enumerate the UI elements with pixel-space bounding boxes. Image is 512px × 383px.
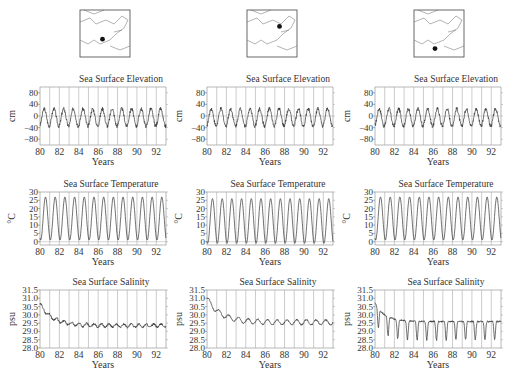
x-tick-label: 88 [280, 147, 290, 157]
x-tick-label: 84 [74, 147, 84, 157]
x-tick-label: 80 [370, 350, 380, 360]
y-axis-label: psu [173, 312, 184, 326]
x-tick-label: 84 [74, 247, 84, 257]
x-tick-label: 84 [409, 147, 419, 157]
x-tick-label: 90 [132, 147, 142, 157]
panel-sea-surface-salinity: Sea Surface Salinity31.531.030.530.029.5… [341, 277, 503, 370]
panel-sea-surface-temperature: Sea Surface Temperature30252015105080828… [173, 179, 335, 267]
x-tick-label: 88 [280, 247, 290, 257]
station-marker [433, 46, 438, 51]
x-tick-label: 80 [370, 247, 380, 257]
x-tick-label: 90 [467, 350, 477, 360]
x-tick-label: 80 [202, 350, 212, 360]
x-tick-label: 88 [113, 247, 123, 257]
y-tick-label: −80 [359, 134, 374, 144]
x-tick-label: 84 [409, 350, 419, 360]
y-tick-label: 80 [196, 88, 206, 98]
panel-sea-surface-elevation: Sea Surface Elevation80400−40−8080828486… [6, 74, 168, 167]
x-tick-label: 92 [319, 247, 329, 257]
y-tick-label: 0 [369, 237, 374, 247]
location-map [80, 10, 130, 57]
x-tick-label: 84 [74, 350, 84, 360]
panel-title: Sea Surface Salinity [72, 277, 149, 287]
data-series [207, 298, 333, 326]
y-axis-label: psu [6, 312, 17, 326]
location-map [414, 10, 464, 57]
station-marker [277, 24, 282, 29]
x-tick-label: 92 [152, 350, 162, 360]
y-tick-label: −40 [24, 123, 39, 133]
x-tick-label: 80 [370, 147, 380, 157]
x-tick-label: 88 [448, 147, 458, 157]
data-series [40, 107, 166, 128]
panel-title: Sea Surface Elevation [414, 74, 498, 84]
panel-sea-surface-elevation: Sea Surface Elevation80400−40−8080828486… [173, 74, 335, 167]
x-tick-label: 88 [280, 350, 290, 360]
y-axis-label: cm [173, 110, 184, 122]
panel-title: Sea Surface Salinity [407, 277, 484, 287]
x-axis-label: Years [427, 156, 449, 167]
y-tick-label: 80 [364, 88, 374, 98]
x-axis-label: Years [92, 256, 114, 267]
data-series [207, 199, 333, 244]
x-tick-label: 82 [55, 247, 65, 257]
x-tick-label: 80 [35, 147, 45, 157]
x-tick-label: 92 [319, 147, 329, 157]
x-tick-label: 84 [241, 147, 251, 157]
data-series [40, 303, 166, 328]
x-tick-label: 90 [299, 350, 309, 360]
x-tick-label: 90 [299, 247, 309, 257]
panel-title: Sea Surface Elevation [79, 74, 163, 84]
x-tick-label: 88 [113, 350, 123, 360]
x-tick-label: 82 [390, 350, 400, 360]
panel-sea-surface-temperature: Sea Surface Temperature30252015105080828… [6, 179, 168, 267]
y-tick-label: −80 [24, 134, 39, 144]
y-tick-label: 0 [201, 237, 206, 247]
x-tick-label: 84 [409, 247, 419, 257]
x-tick-label: 82 [55, 350, 65, 360]
y-tick-label: 0 [34, 111, 39, 121]
data-series [40, 197, 166, 240]
y-axis-label: psu [341, 312, 352, 326]
x-tick-label: 92 [152, 147, 162, 157]
x-tick-label: 92 [487, 247, 497, 257]
x-tick-label: 80 [35, 350, 45, 360]
y-tick-label: 40 [29, 99, 39, 109]
data-series [375, 197, 501, 240]
y-axis-label: cm [6, 110, 17, 122]
x-tick-label: 90 [299, 147, 309, 157]
x-axis-label: Years [427, 359, 449, 370]
x-tick-label: 88 [448, 350, 458, 360]
x-tick-label: 82 [222, 350, 232, 360]
station-marker [100, 37, 105, 42]
panel-sea-surface-elevation: Sea Surface Elevation80400−40−8080828486… [341, 74, 503, 167]
y-tick-label: 0 [201, 111, 206, 121]
panel-title: Sea Surface Temperature [63, 179, 158, 189]
x-tick-label: 90 [467, 247, 477, 257]
y-tick-label: 0 [369, 111, 374, 121]
x-tick-label: 82 [390, 147, 400, 157]
x-tick-label: 92 [152, 247, 162, 257]
panel-title: Sea Surface Temperature [398, 179, 493, 189]
x-tick-label: 82 [55, 147, 65, 157]
y-axis-label: °C [173, 213, 184, 224]
x-tick-label: 82 [222, 247, 232, 257]
y-tick-label: −40 [359, 123, 374, 133]
y-tick-label: 80 [29, 88, 39, 98]
x-tick-label: 88 [448, 247, 458, 257]
x-tick-label: 90 [132, 247, 142, 257]
y-tick-label: 40 [364, 99, 374, 109]
x-tick-label: 80 [202, 147, 212, 157]
x-tick-label: 92 [487, 147, 497, 157]
x-axis-label: Years [259, 359, 281, 370]
x-tick-label: 82 [222, 147, 232, 157]
x-tick-label: 84 [241, 350, 251, 360]
y-tick-label: 40 [196, 99, 206, 109]
panel-sea-surface-salinity: Sea Surface Salinity31.531.030.530.029.5… [173, 277, 335, 370]
y-axis-label: °C [6, 213, 17, 224]
column-0: Sea Surface Elevation80400−40−8080828486… [6, 10, 168, 370]
figure-canvas: Sea Surface Elevation80400−40−8080828486… [0, 0, 512, 383]
x-axis-label: Years [92, 359, 114, 370]
x-tick-label: 92 [487, 350, 497, 360]
x-tick-label: 92 [319, 350, 329, 360]
